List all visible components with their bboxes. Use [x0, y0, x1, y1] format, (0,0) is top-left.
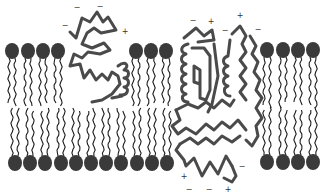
lipid-head: [129, 43, 143, 59]
lipid-tail: [263, 110, 265, 155]
lipid-tail: [63, 108, 65, 156]
lipid-tail: [285, 110, 287, 155]
lipid-tail: [138, 58, 140, 106]
lipid-head: [54, 155, 68, 171]
positive-charge-label: +: [237, 12, 244, 20]
lipid-head: [130, 155, 144, 171]
lipid-tails: [8, 57, 317, 156]
lipid-head: [114, 155, 128, 171]
lipid-tail: [279, 107, 281, 155]
lipid-tail: [108, 108, 110, 156]
lipid-tail: [39, 58, 41, 106]
lipid-tail: [309, 110, 311, 155]
lipid-tail: [60, 58, 62, 106]
lipid-head: [291, 42, 305, 58]
lipid-tail: [14, 58, 16, 106]
lipid-tail: [154, 108, 156, 156]
lipid-tail: [315, 107, 317, 155]
negative-charge-label: −: [97, 3, 104, 11]
positive-charge-label: +: [181, 173, 188, 181]
lipid-tail: [41, 111, 43, 156]
negative-charge-label: −: [190, 17, 197, 25]
lipid-head: [306, 42, 320, 58]
negative-charge-label: −: [186, 186, 193, 194]
lipid-tail: [153, 58, 155, 103]
lipid-head: [276, 42, 290, 58]
lipid-tail: [24, 58, 26, 106]
lipid-head: [5, 43, 19, 59]
lipid-head: [276, 154, 290, 170]
lipid-tail: [54, 58, 56, 103]
lipid-tail: [139, 108, 141, 156]
lipid-tail: [117, 108, 119, 156]
lipid-tail: [294, 110, 296, 155]
lipid-head: [51, 43, 65, 59]
lipid-tail: [315, 57, 317, 108]
lipid-head: [38, 155, 52, 171]
lipid-head: [69, 155, 83, 171]
negative-charge-label: −: [239, 163, 246, 171]
lipid-tail: [32, 111, 34, 156]
lipid-tail: [11, 108, 13, 156]
transmembrane-protein: [172, 26, 262, 182]
lipid-tail: [148, 108, 150, 156]
lipid-tail: [72, 108, 74, 156]
lipid-tail: [169, 111, 171, 156]
lipid-tail: [300, 57, 302, 105]
lipid-tail: [279, 57, 281, 108]
lipid-head: [23, 155, 37, 171]
lipid-tail: [93, 108, 95, 156]
lipid-tail: [102, 108, 104, 156]
lipid-tail: [8, 58, 10, 103]
lipid-tail: [123, 111, 125, 156]
lipid-tail: [133, 111, 135, 156]
positive-charge-label: +: [122, 28, 129, 36]
lipid-head: [36, 43, 50, 59]
negative-charge-label: −: [62, 22, 69, 30]
lipid-head: [8, 155, 22, 171]
lipid-head: [84, 155, 98, 171]
peripheral-protein: [70, 12, 129, 102]
lipid-head: [99, 155, 113, 171]
lipid-tail: [168, 58, 170, 106]
lipid-tail: [294, 57, 296, 102]
lipid-tail: [57, 108, 59, 156]
lipid-tail: [30, 58, 32, 106]
positive-charge-label: +: [225, 186, 232, 194]
membrane-illustration: [0, 0, 321, 195]
lipid-head: [21, 43, 35, 59]
lipid-head: [260, 154, 274, 170]
negative-charge-label: −: [206, 186, 213, 194]
lipid-tail: [300, 110, 302, 155]
lipid-tail: [17, 108, 19, 156]
lipid-head: [159, 43, 173, 59]
lipid-tail: [269, 107, 271, 155]
positive-charge-label: +: [208, 18, 215, 26]
lipid-head: [260, 42, 274, 58]
lipid-tail: [309, 57, 311, 105]
lipid-head: [291, 154, 305, 170]
negative-charge-label: −: [74, 4, 81, 12]
lipid-head: [160, 155, 174, 171]
negative-charge-label: −: [222, 27, 229, 35]
negative-charge-label: −: [255, 26, 262, 34]
lipid-head: [144, 43, 158, 59]
lipid-tail: [285, 57, 287, 102]
lipid-tail: [147, 58, 149, 106]
lipid-tail: [269, 57, 271, 108]
lipid-tail: [45, 58, 47, 103]
lipid-tail: [47, 108, 49, 156]
lipid-tail: [87, 111, 89, 156]
lipid-tail: [163, 108, 165, 156]
lipid-tail: [132, 58, 134, 106]
lipid-head: [145, 155, 159, 171]
lipid-tail: [162, 58, 164, 103]
lipid-head: [306, 154, 320, 170]
lipid-tail: [26, 108, 28, 156]
lipid-tail: [78, 111, 80, 156]
cell-membrane-diagram: −−−+−+−+−+−−−+: [0, 0, 321, 195]
